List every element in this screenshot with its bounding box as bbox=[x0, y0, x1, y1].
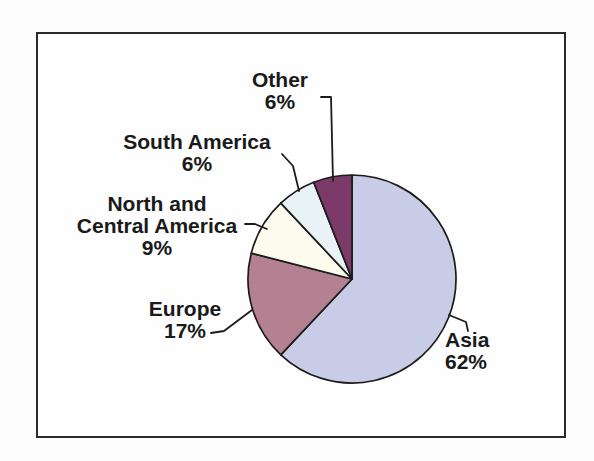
slice-label-south-america-pct: 6% bbox=[123, 153, 270, 175]
slice-label-europe-name: Europe bbox=[149, 298, 221, 320]
slice-label-europe: Europe 17% bbox=[149, 298, 221, 342]
figure-page: Other 6% South America 6% North and Cent… bbox=[0, 0, 594, 461]
slice-label-asia-pct: 62% bbox=[445, 351, 489, 373]
pie-slices bbox=[248, 175, 456, 383]
slice-label-asia-name: Asia bbox=[445, 329, 489, 351]
slice-label-europe-pct: 17% bbox=[149, 320, 221, 342]
slice-label-other: Other 6% bbox=[252, 69, 308, 113]
slice-label-other-pct: 6% bbox=[252, 91, 308, 113]
slice-label-nca-name-line2: Central America bbox=[77, 215, 237, 237]
leader-line-other bbox=[321, 97, 333, 181]
slice-label-south-america: South America 6% bbox=[123, 131, 270, 175]
slice-label-nca-name-line1: North and bbox=[77, 193, 237, 215]
leader-line-south-america bbox=[282, 154, 299, 191]
slice-label-south-america-name: South America bbox=[123, 131, 270, 153]
slice-label-asia: Asia 62% bbox=[445, 329, 489, 373]
slice-label-nca: North and Central America 9% bbox=[77, 193, 237, 259]
slice-label-other-name: Other bbox=[252, 69, 308, 91]
slice-label-nca-pct: 9% bbox=[77, 237, 237, 259]
